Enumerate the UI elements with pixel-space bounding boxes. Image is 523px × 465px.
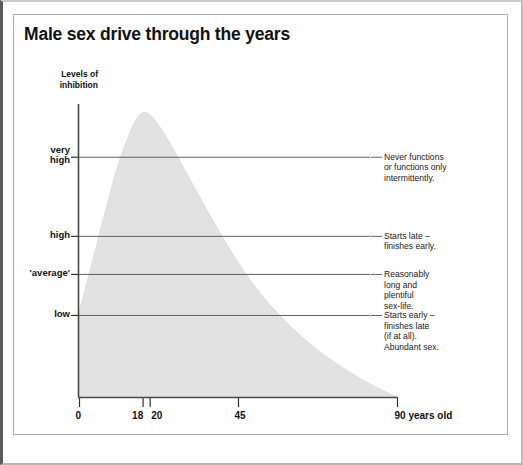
x-axis-ticks-group: [80, 397, 398, 407]
chart-annotation-line: plentiful: [384, 290, 504, 301]
x-axis-tick-label: 45: [235, 410, 246, 421]
area-series-inhibition: [79, 112, 397, 397]
chart-annotation-line: Reasonably: [384, 269, 504, 280]
chart-annotation: Starts late –finishes early.: [384, 231, 504, 252]
annotation-leader-lines-group: [371, 157, 382, 315]
chart-figure: Male sex drive through the years Levels …: [0, 0, 523, 465]
x-axis-tick-label: 90 years old: [395, 410, 453, 421]
y-axis-tick-label: low: [4, 309, 70, 320]
y-axis-tick-label-line: high: [4, 155, 70, 166]
chart-annotation-line: (if at all).: [384, 331, 504, 342]
x-axis-tick-label: 0: [76, 410, 82, 421]
area-series-group: [79, 112, 397, 397]
chart-annotation-line: or functions only: [384, 162, 504, 173]
chart-annotation: Reasonablylong andplentifulsex-life.: [384, 269, 504, 311]
y-axis-tick-label: 'average': [4, 268, 70, 279]
chart-annotation: Starts early –finishes late(if at all).A…: [384, 310, 504, 352]
x-axis-tick-label: 18: [132, 410, 143, 421]
chart-annotation-line: long and: [384, 280, 504, 291]
y-axis-tick-label: veryhigh: [4, 145, 70, 166]
x-axis-tick-label: 20: [151, 410, 162, 421]
y-axis-tick-label-line: 'average': [4, 268, 70, 279]
y-axis-tick-label-line: high: [4, 230, 70, 241]
chart-annotation-line: Starts early –: [384, 310, 504, 321]
y-axis-tick-label: high: [4, 230, 70, 241]
chart-annotation-line: finishes early.: [384, 241, 504, 252]
chart-annotation-line: Starts late –: [384, 231, 504, 242]
chart-annotation-line: finishes late: [384, 321, 504, 332]
chart-annotation-line: intermittently.: [384, 173, 504, 184]
chart-annotation-line: Never functions: [384, 152, 504, 163]
y-axis-tick-label-line: low: [4, 309, 70, 320]
chart-annotation-line: Abundant sex.: [384, 342, 504, 353]
chart-annotation: Never functionsor functions onlyintermit…: [384, 152, 504, 184]
